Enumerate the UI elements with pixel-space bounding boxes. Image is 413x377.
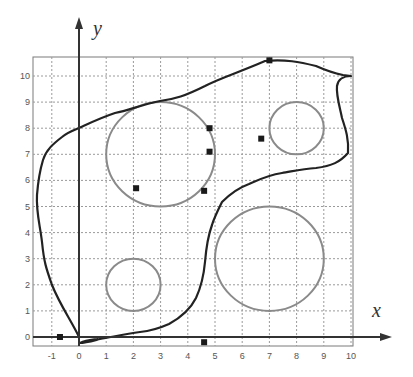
point-marker-icon	[201, 339, 207, 345]
y-tick-label: 7	[25, 149, 30, 159]
point-marker-icon	[201, 188, 207, 194]
y-tick-labels: 012345678910	[20, 71, 30, 342]
point-marker-icon	[258, 136, 264, 142]
x-tick-label: 9	[321, 351, 326, 361]
x-tick-label: 0	[76, 351, 81, 361]
x-tick-label: 10	[346, 351, 356, 361]
y-tick-label: 5	[25, 202, 30, 212]
x-tick-label: 6	[240, 351, 245, 361]
point-marker-icon	[133, 185, 139, 191]
y-tick-label: 10	[20, 71, 30, 81]
point-marker-icon	[57, 334, 63, 340]
x-tick-labels: -1012345678910	[48, 351, 356, 361]
x-tick-label: 1	[104, 351, 109, 361]
x-axis-arrow-icon	[380, 333, 392, 341]
x-tick-label: 5	[212, 351, 217, 361]
coordinate-diagram: -1012345678910 012345678910 x y	[0, 0, 413, 377]
y-tick-label: 4	[25, 228, 30, 238]
y-tick-label: 9	[25, 97, 30, 107]
x-tick-label: 7	[267, 351, 272, 361]
y-axis-label: y	[91, 17, 102, 40]
y-tick-label: 3	[25, 254, 30, 264]
point-marker-icon	[207, 125, 213, 131]
point-marker-icon	[266, 57, 272, 63]
x-tick-label: 4	[185, 351, 190, 361]
y-tick-label: 0	[25, 332, 30, 342]
x-axis-label: x	[371, 299, 381, 321]
x-tick-label: -1	[48, 351, 56, 361]
y-tick-label: 2	[25, 280, 30, 290]
point-marker-icon	[207, 149, 213, 155]
x-tick-label: 8	[294, 351, 299, 361]
y-tick-label: 1	[25, 306, 30, 316]
y-tick-label: 6	[25, 175, 30, 185]
y-axis-arrow-icon	[75, 17, 83, 29]
x-tick-label: 3	[158, 351, 163, 361]
x-tick-label: 2	[131, 351, 136, 361]
y-tick-label: 8	[25, 123, 30, 133]
